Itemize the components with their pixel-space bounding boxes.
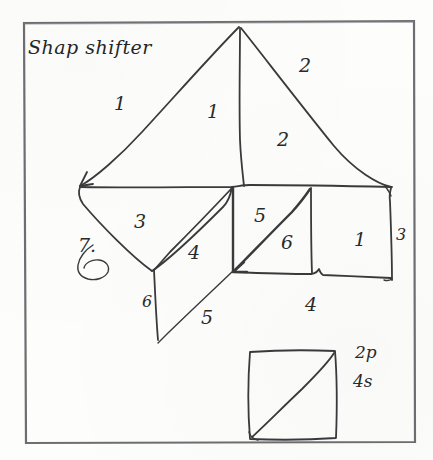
label-edge-bottom-right: 4 — [304, 293, 317, 315]
inset-square — [249, 350, 337, 440]
label-edge-bottom-left: 6 — [142, 292, 152, 311]
hull-left-triangle — [79, 187, 232, 271]
label-hull-parallelogram: 4 — [187, 241, 200, 263]
sketch-svg: Shap shifter 1 1 2 2 3 4 5 6 1 3 6 5 4 7… — [0, 0, 433, 460]
label-edge-right: 3 — [396, 225, 406, 244]
legend-line-one: 2p — [354, 342, 377, 362]
label-hull-right-square: 1 — [354, 228, 366, 250]
page-title: Shap shifter — [28, 36, 153, 58]
hull-center-square — [233, 188, 391, 278]
label-edge-bottom-mid: 5 — [201, 306, 213, 328]
label-sail-left-outer: 1 — [114, 92, 126, 114]
label-hull-square-upper: 5 — [254, 204, 266, 226]
label-sail-right-outer: 2 — [298, 54, 311, 76]
label-hull-square-lower: 6 — [281, 231, 293, 253]
label-hull-left-triangle: 3 — [134, 210, 146, 232]
label-sail-right-inner: 2 — [276, 128, 289, 150]
hull-parallelogram — [154, 188, 233, 343]
label-sail-left-inner: 1 — [207, 100, 219, 122]
label-count-marker: 7. — [78, 234, 96, 256]
legend-line-two: 4s — [352, 371, 373, 391]
sketch-canvas: Shap shifter 1 1 2 2 3 4 5 6 1 3 6 5 4 7… — [0, 0, 433, 460]
hull-right-square — [384, 186, 392, 281]
deck-baseline — [80, 185, 392, 187]
